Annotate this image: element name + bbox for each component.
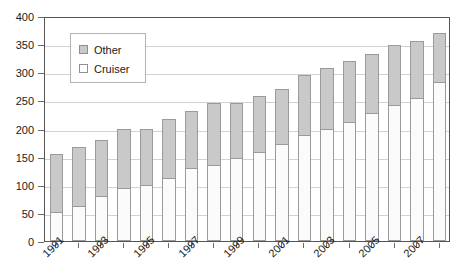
bar-column xyxy=(253,96,267,241)
bar-segment-other xyxy=(388,45,402,105)
bar-segment-other xyxy=(72,147,86,206)
y-axis-tick-label: 400 xyxy=(0,12,34,22)
legend-swatch-other-icon xyxy=(79,45,88,54)
y-axis-tick-label: 350 xyxy=(0,40,34,50)
bar-segment-other xyxy=(275,89,289,144)
bar-segment-other xyxy=(343,61,357,122)
y-axis-tick-label: 200 xyxy=(0,125,34,135)
bar-segment-other xyxy=(410,41,424,97)
bar-segment-cruiser xyxy=(320,129,334,242)
bar-segment-cruiser xyxy=(117,188,131,241)
bar-column xyxy=(162,119,176,241)
bar-chart: 400350300250200150100500 199119931995199… xyxy=(0,0,464,280)
bar-segment-cruiser xyxy=(298,135,312,241)
x-axis-tick-mark xyxy=(213,243,214,248)
y-axis-tick-label: 100 xyxy=(0,181,34,191)
y-axis-tick-label: 150 xyxy=(0,153,34,163)
bar-column xyxy=(50,154,64,241)
bar-segment-other xyxy=(253,96,267,152)
bar-segment-other xyxy=(298,75,312,135)
x-axis-tick-mark xyxy=(78,243,79,248)
y-axis-tick-label: 300 xyxy=(0,68,34,78)
legend-item-cruiser: Cruiser xyxy=(79,59,145,78)
y-axis-tick-mark xyxy=(38,242,44,243)
bar-column xyxy=(72,147,86,241)
bar-segment-other xyxy=(185,111,199,168)
bar-column xyxy=(117,129,131,242)
bar-column xyxy=(95,140,109,241)
bar-column xyxy=(365,54,379,241)
y-axis-tick-label: 250 xyxy=(0,96,34,106)
bar-segment-cruiser xyxy=(230,158,244,241)
x-axis-tick-mark xyxy=(394,243,395,248)
bar-segment-other xyxy=(50,154,64,212)
bar-segment-other xyxy=(320,68,334,128)
x-axis-tick-mark xyxy=(123,243,124,248)
bar-segment-cruiser xyxy=(72,206,86,241)
legend-label-other: Other xyxy=(94,44,122,56)
bar-segment-cruiser xyxy=(343,122,357,241)
bar-column xyxy=(410,41,424,241)
bar-segment-cruiser xyxy=(140,185,154,241)
bar-column xyxy=(343,61,357,241)
bar-segment-cruiser xyxy=(253,152,267,241)
legend: Other Cruiser xyxy=(70,33,146,83)
bar-segment-cruiser xyxy=(388,105,402,241)
legend-item-other: Other xyxy=(79,40,145,59)
legend-swatch-cruiser-icon xyxy=(79,64,88,73)
x-axis-tick-mark xyxy=(168,243,169,248)
x-axis-tick-mark xyxy=(439,243,440,248)
bar-column xyxy=(230,103,244,241)
bar-segment-cruiser xyxy=(185,168,199,241)
bar-segment-other xyxy=(140,129,154,185)
y-axis-tick-label: 0 xyxy=(0,237,34,247)
x-axis-tick-mark xyxy=(349,243,350,248)
x-axis-tick-mark xyxy=(258,243,259,248)
bar-column xyxy=(275,89,289,241)
bar-column xyxy=(185,111,199,242)
bar-column xyxy=(207,103,221,241)
bar-segment-cruiser xyxy=(410,98,424,241)
x-axis-tick-mark xyxy=(303,243,304,248)
bar-segment-other xyxy=(162,119,176,178)
bar-column xyxy=(298,75,312,241)
bar-segment-other xyxy=(207,103,221,165)
bar-column xyxy=(433,33,447,241)
bar-segment-cruiser xyxy=(433,82,447,241)
legend-label-cruiser: Cruiser xyxy=(94,63,129,75)
bar-column xyxy=(388,45,402,241)
bar-segment-cruiser xyxy=(275,144,289,241)
y-axis-tick-label: 50 xyxy=(0,209,34,219)
bar-column xyxy=(320,68,334,241)
bar-segment-other xyxy=(433,33,447,82)
bar-segment-other xyxy=(95,140,109,196)
bar-segment-other xyxy=(365,54,379,113)
bar-segment-other xyxy=(117,129,131,188)
bar-column xyxy=(140,129,154,242)
bar-segment-cruiser xyxy=(162,178,176,241)
bar-segment-cruiser xyxy=(207,165,221,241)
bar-segment-cruiser xyxy=(365,113,379,241)
bar-segment-other xyxy=(230,103,244,158)
